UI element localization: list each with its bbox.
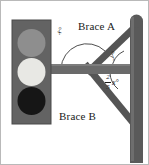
- label-brace-a: Brace A: [78, 21, 115, 32]
- fraction-numerator: 2: [106, 74, 110, 81]
- fraction-two-fifths: 2 5: [105, 74, 111, 91]
- fraction-variable: x°: [112, 79, 119, 87]
- diagram-canvas: [1, 1, 149, 165]
- traffic-light-bottom-lamp: [18, 87, 46, 115]
- traffic-light-top-lamp: [18, 29, 46, 57]
- label-angle-fraction-x: 2 5 x°: [105, 74, 119, 91]
- horizontal-arm-highlight: [45, 64, 135, 66]
- geometry-diagram: Brace A Brace B x° y° 2 5 x°: [0, 0, 149, 165]
- label-brace-b: Brace B: [59, 111, 96, 122]
- fraction-denominator: 5: [106, 84, 110, 91]
- vertical-pole-highlight: [131, 17, 134, 161]
- traffic-light-middle-lamp: [18, 58, 46, 86]
